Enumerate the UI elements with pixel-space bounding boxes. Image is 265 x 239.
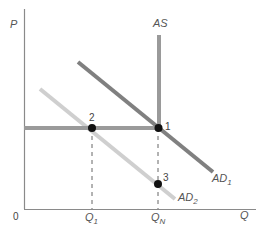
q1-tick-label: Q1 xyxy=(85,211,98,226)
y-axis-label: P xyxy=(10,18,18,30)
origin-label: 0 xyxy=(13,211,19,222)
point-1-label: 1 xyxy=(165,121,171,132)
x-axis-label: Q xyxy=(240,209,249,221)
ad-as-diagram: P Q 0 Q1 QN AS AD1 AD2 1 2 3 xyxy=(0,0,265,239)
as-label: AS xyxy=(152,17,168,29)
qn-sub: N xyxy=(160,217,166,226)
point-3 xyxy=(154,180,162,188)
ad1-curve xyxy=(78,62,213,172)
qn-tick-label: QN xyxy=(151,211,166,226)
point-1 xyxy=(155,124,163,132)
q1-sub: 1 xyxy=(94,217,98,226)
point-2-label: 2 xyxy=(89,112,95,123)
ad2-label: AD2 xyxy=(177,191,198,206)
point-3-label: 3 xyxy=(163,172,169,183)
point-2 xyxy=(88,124,96,132)
ad1-label: AD1 xyxy=(211,172,232,187)
